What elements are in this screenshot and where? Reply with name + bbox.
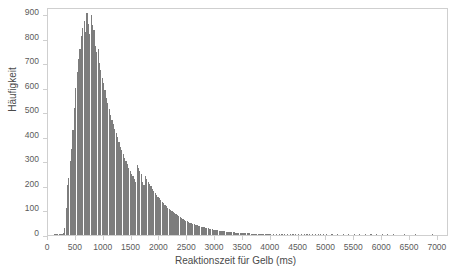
histogram-bar <box>387 234 388 235</box>
y-tick-label: 100 <box>25 204 39 213</box>
histogram-bar <box>292 234 293 235</box>
x-tick-mark <box>381 236 382 240</box>
histogram-bar <box>415 234 416 235</box>
x-tick-mark <box>131 236 132 240</box>
x-tick-label: 3000 <box>205 242 224 252</box>
histogram-bar <box>281 234 282 235</box>
histogram-bar <box>309 234 310 235</box>
histogram-bar <box>287 234 288 235</box>
histogram-bar <box>323 234 324 235</box>
x-tick-label: 4000 <box>260 242 279 252</box>
histogram-bar <box>304 234 305 235</box>
y-tick-label: 400 <box>25 131 39 140</box>
x-tick-mark <box>47 236 48 240</box>
y-axis-title: Häufigkeit <box>7 42 18 138</box>
x-tick-mark <box>437 236 438 240</box>
x-tick-label: 1500 <box>121 242 140 252</box>
x-tick-mark <box>270 236 271 240</box>
histogram-bar <box>320 234 321 235</box>
histogram-bar <box>301 234 302 235</box>
histogram-bar <box>270 234 271 235</box>
x-tick-label: 6000 <box>372 242 391 252</box>
histogram-bar <box>315 234 316 235</box>
x-tick-label: 2000 <box>149 242 168 252</box>
x-axis-title: Reaktionszeit für Gelb (ms) <box>0 255 471 266</box>
x-tick-label: 4500 <box>288 242 307 252</box>
x-tick-label: 2500 <box>177 242 196 252</box>
x-tick-label: 1000 <box>93 242 112 252</box>
y-tick-label: 900 <box>25 8 39 17</box>
x-tick-label: 7000 <box>427 242 446 252</box>
x-tick-mark <box>75 236 76 240</box>
histogram-bar <box>365 234 366 235</box>
histogram-bar <box>318 234 319 235</box>
histogram-bar <box>295 234 296 235</box>
y-tick-label: 300 <box>25 155 39 164</box>
x-tick-mark <box>242 236 243 240</box>
histogram-bar <box>279 234 280 235</box>
plot-frame <box>47 8 448 236</box>
histogram-bar <box>370 234 371 235</box>
x-tick-label: 6500 <box>400 242 419 252</box>
histogram-bar <box>376 234 377 235</box>
histogram-bar <box>273 234 274 235</box>
histogram-bar <box>290 234 291 235</box>
y-tick-label: 600 <box>25 82 39 91</box>
plot-area <box>48 9 447 235</box>
x-tick-mark <box>158 236 159 240</box>
histogram-bar <box>276 234 277 235</box>
histogram-bar <box>312 234 313 235</box>
histogram-bar <box>393 234 394 235</box>
x-tick-mark <box>214 236 215 240</box>
y-tick-label: 700 <box>25 57 39 66</box>
histogram-bar <box>404 234 405 235</box>
histogram-bar <box>359 234 360 235</box>
histogram-bar <box>432 234 433 235</box>
x-tick-mark <box>186 236 187 240</box>
histogram-bar <box>382 234 383 235</box>
histogram-bar <box>298 234 299 235</box>
histogram-bar <box>326 234 327 235</box>
x-tick-label: 500 <box>68 242 82 252</box>
x-tick-mark <box>325 236 326 240</box>
histogram-bar <box>306 234 307 235</box>
y-tick-label: 800 <box>25 33 39 42</box>
y-tick-label: 500 <box>25 106 39 115</box>
x-tick-label: 0 <box>45 242 50 252</box>
x-tick-label: 5000 <box>316 242 335 252</box>
x-tick-mark <box>103 236 104 240</box>
histogram-bar <box>348 234 349 235</box>
histogram-bars <box>48 9 447 235</box>
x-tick-mark <box>298 236 299 240</box>
x-tick-label: 3500 <box>232 242 251 252</box>
histogram-bar <box>331 234 332 235</box>
histogram-bar <box>284 234 285 235</box>
histogram-bar <box>343 234 344 235</box>
histogram-bar <box>337 234 338 235</box>
y-tick-label: 200 <box>25 180 39 189</box>
histogram-figure: Häufigkeit 0100200300400500600700800900 … <box>0 0 471 278</box>
x-tick-label: 5500 <box>344 242 363 252</box>
x-tick-mark <box>409 236 410 240</box>
x-tick-mark <box>353 236 354 240</box>
histogram-bar <box>354 234 355 235</box>
